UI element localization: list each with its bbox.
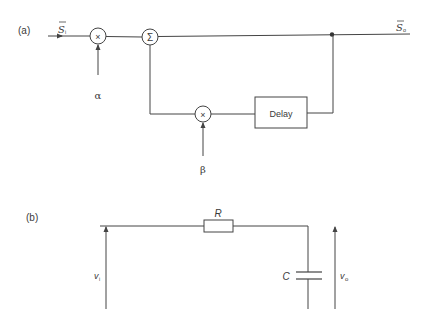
beta-label: β (200, 164, 206, 175)
multiplier-beta: × (195, 106, 211, 122)
svg-text:i: i (99, 276, 100, 282)
figure-b: (b) R C v i v o (26, 208, 349, 309)
capacitor-label: C (282, 271, 290, 282)
diagram-canvas: (a) S i × α Σ S o (0, 0, 430, 309)
feedback-wire-left (150, 45, 195, 114)
figure-a: (a) S i × α Σ S o (18, 21, 410, 175)
delay-label: Delay (269, 109, 293, 119)
multiplier-alpha: × (90, 28, 106, 44)
resistor (204, 220, 233, 232)
svg-text:S: S (58, 24, 65, 35)
svg-text:i: i (65, 29, 66, 35)
vo-label: v o (340, 271, 349, 282)
svg-text:o: o (403, 27, 406, 33)
svg-text:S: S (396, 22, 403, 33)
multiply-icon: × (95, 32, 100, 42)
summer: Σ (142, 29, 158, 45)
resistor-label: R (214, 208, 221, 219)
output-wire (158, 34, 410, 37)
feedback-wire-right (307, 35, 333, 113)
alpha-label: α (95, 90, 102, 101)
wire-mult-sum (106, 37, 142, 38)
svg-text:o: o (345, 276, 349, 282)
vi-label: v i (94, 271, 100, 282)
output-signal-label: S o (396, 21, 406, 33)
sigma-icon: Σ (147, 32, 153, 43)
junction-dot (330, 32, 334, 36)
input-signal-label: S i (58, 22, 66, 35)
figure-b-label: (b) (26, 212, 38, 223)
multiply-icon: × (200, 110, 205, 120)
delay-block: Delay (255, 97, 307, 128)
figure-a-label: (a) (18, 25, 30, 36)
